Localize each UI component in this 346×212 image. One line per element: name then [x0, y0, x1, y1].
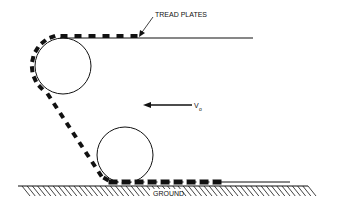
- tread-plates: [30, 34, 222, 185]
- tread-plate: [78, 141, 85, 148]
- tread-plate: [75, 34, 82, 38]
- tread-plate: [84, 151, 91, 158]
- plate-gap: [197, 181, 200, 184]
- tread-plate: [89, 34, 96, 38]
- tread-plate: [30, 66, 35, 72]
- tread-plate: [135, 180, 144, 185]
- tread-plate: [148, 180, 157, 185]
- tread-plate: [90, 161, 97, 168]
- tread-plate: [187, 180, 196, 185]
- velocity-arrowhead: [143, 102, 151, 108]
- tread-plate: [174, 180, 183, 185]
- tread-plate: [61, 34, 68, 38]
- plate-gap: [119, 181, 122, 184]
- tread-plate: [103, 34, 110, 38]
- tread-plates-arrowhead: [139, 30, 145, 37]
- tread-plate: [109, 180, 118, 185]
- plate-gap: [132, 181, 135, 184]
- tread-plate: [58, 112, 65, 119]
- tread-plate: [122, 180, 131, 185]
- upper-wheel: [35, 38, 91, 94]
- velocity-subscript: o: [199, 106, 202, 112]
- plate-gap: [210, 181, 213, 184]
- tread-plate: [52, 102, 59, 109]
- tread-plate: [131, 34, 138, 38]
- lower-wheel: [97, 127, 153, 183]
- tread-plates-label: TREAD PLATES: [155, 11, 207, 18]
- tread-plate: [117, 34, 124, 38]
- plate-gap: [145, 181, 148, 184]
- tread-plate: [30, 56, 35, 63]
- tread-plate: [46, 92, 53, 99]
- plate-gap: [158, 181, 161, 184]
- track-diagram: TREAD PLATES V o GROUND: [0, 0, 346, 212]
- tread-plate: [161, 180, 170, 185]
- plate-gap: [184, 181, 187, 184]
- tread-plate: [71, 131, 78, 138]
- tread-plate: [213, 180, 222, 185]
- plate-gap: [171, 181, 174, 184]
- ground-label: GROUND: [153, 190, 184, 197]
- tread-plate: [65, 122, 72, 129]
- tread-plate: [200, 180, 209, 185]
